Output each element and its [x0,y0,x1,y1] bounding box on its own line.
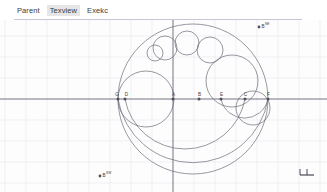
point-label-G: G [115,92,119,97]
construction-svg[interactable]: GDABECF BNEBSW [0,0,327,192]
point-A[interactable] [172,98,175,101]
point-G[interactable] [117,98,120,101]
menu-bar[interactable]: Parent Texview Exekc [0,0,327,20]
point-label-A: A [172,92,176,97]
point-B-southwest[interactable] [99,175,102,178]
menu-item-exekc[interactable]: Exekc [84,5,111,16]
point-C[interactable] [244,98,247,101]
point-label-D: D [125,92,129,97]
application-window: GDABECF BNEBSW Parent Texview Exekc [0,0,327,192]
point-B[interactable] [198,98,201,101]
point-label-sup-B-northeast: NE [265,22,269,26]
lower-arc-G-to-F [118,99,268,163]
point-D[interactable] [124,98,127,101]
menu-item-texview[interactable]: Texview [47,5,80,16]
geometry-canvas[interactable]: GDABECF BNEBSW [0,0,327,192]
point-E[interactable] [220,98,223,101]
scale-bar [300,169,314,175]
point-label-F: F [267,92,270,97]
point-label-B: B [198,92,201,97]
point-label-E: E [220,92,223,97]
point-F[interactable] [267,98,270,101]
point-B-northeast[interactable] [258,26,261,29]
point-label-sup-B-southwest: SW [106,171,111,175]
grid-lines [0,0,327,192]
chain-circle-small-left [147,45,163,61]
menu-item-parent[interactable]: Parent [14,5,43,16]
chain-circle-3 [197,37,223,63]
chain-circle-2 [175,31,199,55]
menu-bar-divider [14,19,302,20]
